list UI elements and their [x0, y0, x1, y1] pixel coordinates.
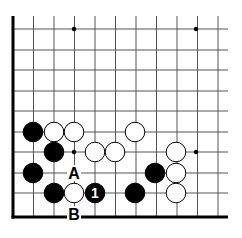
star-point: [72, 27, 76, 31]
white-stone: [166, 183, 186, 203]
white-stone: [64, 183, 84, 203]
black-stone: [145, 163, 165, 183]
black-stone: [125, 183, 145, 203]
white-stone: [125, 122, 145, 142]
star-point: [194, 150, 198, 154]
star-point: [194, 27, 198, 31]
go-board: AB1: [0, 0, 242, 238]
white-stone: [105, 142, 125, 162]
white-stone: [166, 163, 186, 183]
white-stone: [44, 122, 64, 142]
white-stone: [166, 142, 186, 162]
coordinate-label-b: B: [68, 206, 80, 223]
black-stone: [44, 142, 64, 162]
coordinate-label-a: A: [68, 165, 80, 182]
white-stone: [85, 142, 105, 162]
white-stone: [64, 122, 84, 142]
black-stone: [44, 183, 64, 203]
black-stone: [23, 122, 43, 142]
move-number: 1: [91, 185, 99, 201]
star-point: [72, 150, 76, 154]
black-stone: [23, 163, 43, 183]
